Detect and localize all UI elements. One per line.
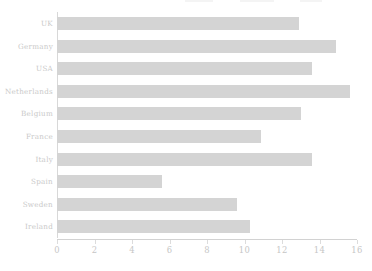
category-label-france: France [1,125,53,148]
bar-row [57,148,357,171]
bar [57,40,336,53]
x-tick-mark [207,240,208,244]
bar [57,198,237,211]
x-tick-mark [245,240,246,244]
category-label-germany: Germany [1,35,53,58]
x-tick-label-8: 8 [194,245,220,255]
top-edge-artifact [185,0,213,2]
category-label-ireland: Ireland [1,215,53,238]
category-label-italy: Italy [1,148,53,171]
x-tick-mark [170,240,171,244]
bar-row [57,193,357,216]
category-label-netherlands: Netherlands [1,80,53,103]
x-tick-label-14: 14 [307,245,333,255]
x-tick-mark [57,240,58,244]
top-edge-artifact [300,0,322,2]
bar [57,85,350,98]
bar-chart: UKGermanyUSANetherlandsBelgiumFranceItal… [0,0,372,271]
bar-row [57,215,357,238]
category-label-spain: Spain [1,170,53,193]
bar [57,175,162,188]
x-tick-label-2: 2 [82,245,108,255]
bar [57,220,250,233]
x-tick-label-10: 10 [232,245,258,255]
x-tick-label-6: 6 [157,245,183,255]
bar-row [57,80,357,103]
x-tick-label-12: 12 [269,245,295,255]
top-edge-artifact [240,0,274,2]
category-label-sweden: Sweden [1,193,53,216]
x-tick-mark [357,240,358,244]
x-tick-mark [320,240,321,244]
bar-row [57,12,357,35]
category-label-usa: USA [1,57,53,80]
x-tick-mark [95,240,96,244]
category-label-uk: UK [1,12,53,35]
x-tick-label-16: 16 [344,245,370,255]
x-tick-mark [132,240,133,244]
bar-row [57,170,357,193]
x-tick-label-4: 4 [119,245,145,255]
bar [57,130,261,143]
bar-row [57,57,357,80]
x-tick-label-0: 0 [44,245,70,255]
category-label-belgium: Belgium [1,102,53,125]
bar [57,153,312,166]
bar-row [57,102,357,125]
bar [57,17,299,30]
bar-row [57,125,357,148]
bar [57,62,312,75]
bar-row [57,35,357,58]
bar [57,107,301,120]
x-tick-mark [282,240,283,244]
plot-area [57,12,357,238]
